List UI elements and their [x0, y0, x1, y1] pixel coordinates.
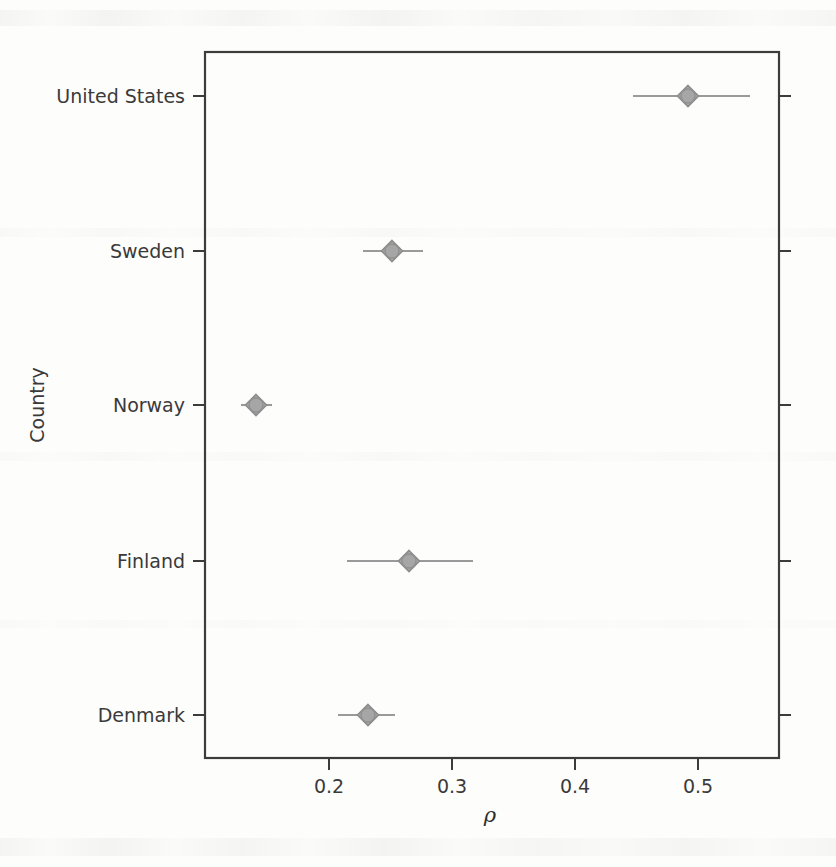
y-tick-label-denmark: Denmark: [98, 704, 185, 726]
plot-panel-border: [205, 52, 779, 758]
x-axis-tick-labels: 0.2 0.3 0.4 0.5: [314, 775, 713, 797]
marker-dot-denmark: [361, 708, 375, 722]
x-axis-title: ρ: [483, 803, 497, 827]
datapoint-norway: [241, 395, 272, 416]
x-tick-label-0-5: 0.5: [683, 775, 713, 797]
marker-dot-united-states: [681, 89, 695, 103]
y-tick-label-sweden: Sweden: [110, 240, 185, 262]
datapoint-denmark: [338, 705, 395, 726]
datapoint-united-states: [633, 86, 750, 107]
y-axis-title: Country: [26, 367, 48, 442]
y-axis-tick-labels: United States Sweden Norway Finland Denm…: [56, 85, 185, 726]
datapoint-sweden: [363, 241, 423, 262]
marker-dot-finland: [402, 554, 416, 568]
y-axis-ticks: [193, 96, 791, 715]
marker-dot-sweden: [385, 244, 399, 258]
marker-dot-norway: [249, 398, 263, 412]
x-tick-label-0-3: 0.3: [437, 775, 467, 797]
y-tick-label-united-states: United States: [56, 85, 185, 107]
x-axis-ticks: [329, 758, 698, 770]
datapoint-finland: [347, 551, 473, 572]
dot-plot-with-error-bars: United States Sweden Norway Finland Denm…: [0, 0, 836, 867]
y-tick-label-finland: Finland: [117, 550, 185, 572]
y-tick-label-norway: Norway: [113, 394, 185, 416]
figure-canvas: United States Sweden Norway Finland Denm…: [0, 0, 836, 867]
x-tick-label-0-2: 0.2: [314, 775, 344, 797]
x-tick-label-0-4: 0.4: [560, 775, 590, 797]
